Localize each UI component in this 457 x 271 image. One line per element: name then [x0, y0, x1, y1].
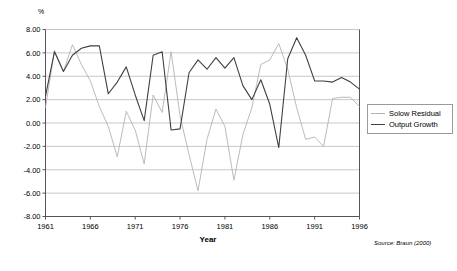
x-tick-label: 1996: [351, 222, 368, 231]
x-tick-label: 1981: [217, 222, 234, 231]
y-tick-label: 0.00: [26, 119, 41, 128]
y-tick-label: 2.00: [26, 95, 41, 104]
y-tick-label: 6.00: [26, 49, 41, 58]
legend-item-output-growth: Output Growth: [371, 119, 450, 130]
y-tick-label: 4.00: [26, 72, 41, 81]
y-tick-label: 8.00: [26, 25, 41, 34]
x-tick-label: 1966: [82, 222, 99, 231]
series-line-solow-residual: [46, 44, 360, 191]
legend-swatch-solow-residual: [371, 113, 385, 114]
y-tick-label: -2.00: [23, 142, 40, 151]
legend-swatch-output-growth: [371, 124, 385, 125]
x-tick-label: 1991: [306, 222, 323, 231]
x-axis-title: Year: [178, 235, 238, 244]
chart-container: % 8.006.004.002.000.00-2.00-4.00-6.00-8.…: [0, 0, 457, 271]
x-tick-label: 1971: [127, 222, 144, 231]
gridlines: [46, 30, 360, 217]
source-note: Source: Braun (2000): [374, 240, 431, 246]
chart-legend: Solow Residual Output Growth: [367, 104, 453, 134]
x-tick-label: 1976: [172, 222, 189, 231]
plot-area: 8.006.004.002.000.00-2.00-4.00-6.00-8.00…: [0, 0, 457, 271]
legend-label-solow-residual: Solow Residual: [389, 109, 441, 118]
x-tick-label: 1961: [37, 222, 54, 231]
y-tick-label: -4.00: [23, 166, 40, 175]
legend-item-solow-residual: Solow Residual: [371, 108, 450, 119]
legend-label-output-growth: Output Growth: [389, 120, 438, 129]
series-line-output-growth: [46, 38, 360, 148]
y-axis-ticks: 8.006.004.002.000.00-2.00-4.00-6.00-8.00: [23, 25, 45, 221]
y-tick-label: -8.00: [23, 212, 40, 221]
x-tick-label: 1986: [261, 222, 278, 231]
y-tick-label: -6.00: [23, 189, 40, 198]
x-axis-ticks: 19611966197119761981198619911996: [37, 217, 368, 231]
